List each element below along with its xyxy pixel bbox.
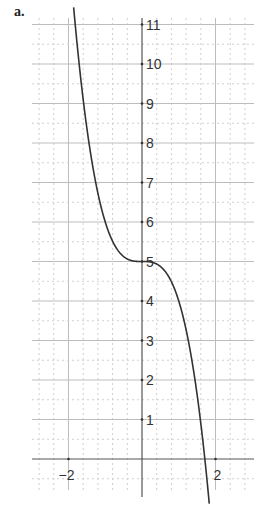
- y-tick-label: 9: [146, 96, 154, 112]
- y-tick-mark: [141, 102, 144, 105]
- x-tick-label: 2: [214, 467, 222, 483]
- y-tick-label: 2: [146, 372, 154, 388]
- y-tick-mark: [141, 418, 144, 421]
- y-tick-mark: [141, 63, 144, 66]
- y-tick-mark: [141, 300, 144, 303]
- y-tick-mark: [141, 181, 144, 184]
- y-tick-label: 7: [146, 175, 154, 191]
- y-tick-mark: [141, 23, 144, 26]
- y-tick-mark: [141, 339, 144, 342]
- axes: [32, 18, 254, 497]
- y-tick-mark: [141, 142, 144, 145]
- y-tick-mark: [141, 379, 144, 382]
- y-tick-label: 8: [146, 135, 154, 151]
- x-tick-mark: [67, 458, 70, 461]
- y-tick-label: 3: [146, 333, 154, 349]
- y-tick-label: 10: [146, 56, 162, 72]
- y-tick-label: 6: [146, 214, 154, 230]
- function-plot: 1234567891011−22: [0, 0, 273, 505]
- x-tick-mark: [214, 458, 217, 461]
- y-tick-label: 4: [146, 293, 154, 309]
- x-tick-label: −2: [59, 467, 75, 483]
- y-tick-mark: [141, 221, 144, 224]
- y-tick-label: 11: [146, 17, 161, 33]
- y-tick-label: 1: [146, 412, 154, 428]
